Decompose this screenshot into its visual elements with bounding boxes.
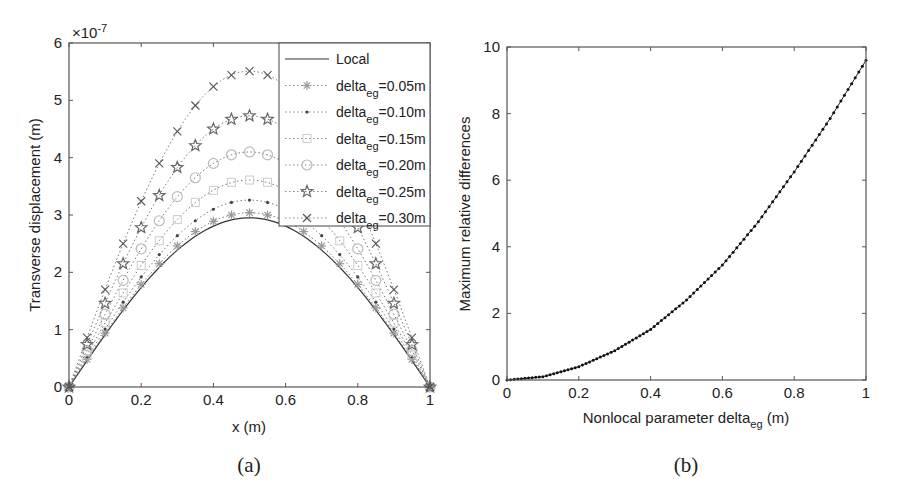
chart-b-relative-differences: 00.20.40.60.810246810 Nonlocal parameter… (456, 38, 870, 477)
y-tick-label: 4 (54, 149, 62, 166)
marker-dot-icon (721, 264, 724, 267)
marker-circle-icon (245, 147, 255, 157)
marker-x-icon (83, 334, 91, 342)
marker-x-icon (101, 286, 109, 294)
marker-dot-icon (212, 208, 215, 211)
marker-dot-icon (760, 215, 763, 218)
x-tick-label: 1 (426, 391, 434, 408)
chart-b-panel-label: (b) (674, 453, 699, 477)
marker-dot-icon (782, 185, 785, 188)
marker-dot-icon (674, 307, 677, 310)
marker-dot-icon (768, 205, 771, 208)
marker-dot-icon (545, 374, 548, 377)
marker-dot-icon (681, 302, 684, 305)
marker-dot-icon (599, 356, 602, 359)
marker-dot-icon (392, 327, 395, 330)
marker-dot-icon (786, 180, 789, 183)
marker-dot-icon (818, 133, 821, 136)
y-tick-label: 3 (54, 206, 62, 223)
marker-asterisk-icon (263, 211, 272, 220)
marker-dot-icon (778, 190, 781, 193)
marker-star-icon (244, 110, 255, 121)
y-tick-label: 5 (54, 91, 62, 108)
marker-dot-icon (549, 373, 552, 376)
marker-dot-icon (653, 325, 656, 328)
marker-dot-icon (606, 352, 609, 355)
marker-dot-icon (631, 339, 634, 342)
marker-dot-icon (266, 201, 269, 204)
marker-dot-icon (194, 219, 197, 222)
marker-dot-icon (764, 210, 767, 213)
marker-asterisk-icon (299, 227, 308, 236)
marker-dot-icon (646, 330, 649, 333)
marker-circle-icon (371, 275, 381, 285)
marker-star-icon (172, 161, 183, 172)
marker-x-icon (173, 127, 181, 135)
marker-dot-icon (839, 100, 842, 103)
marker-dot-icon (689, 295, 692, 298)
marker-circle-icon (136, 244, 146, 254)
x-tick-label: 0.4 (203, 391, 224, 408)
marker-dot-icon (714, 271, 717, 274)
marker-dot-icon (602, 354, 605, 357)
marker-dot-icon (538, 376, 541, 379)
marker-dot-icon (588, 360, 591, 363)
marker-asterisk-icon (173, 241, 182, 250)
marker-dot-icon (692, 292, 695, 295)
marker-dot-icon (541, 375, 544, 378)
chart-a-x-axis-label: x (m) (232, 418, 266, 435)
marker-dot-icon (836, 105, 839, 108)
marker-x-icon (119, 240, 127, 248)
y-tick-label: 2 (492, 304, 500, 321)
marker-dot-icon (850, 82, 853, 85)
marker-dot-icon (667, 313, 670, 316)
marker-dot-icon (746, 233, 749, 236)
marker-star-icon (226, 113, 237, 124)
marker-dot-icon (104, 327, 107, 330)
marker-dot-icon (628, 341, 631, 344)
marker-dot-icon (660, 319, 663, 322)
marker-dot-icon (320, 234, 323, 237)
chart-b-plot-area (506, 59, 868, 382)
marker-dot-icon (732, 251, 735, 254)
marker-dot-icon (642, 332, 645, 335)
chart-b-y-axis-label: Maximum relative differences (456, 117, 473, 312)
legend-marker-dot-icon (305, 110, 308, 113)
marker-asterisk-icon (191, 227, 200, 236)
marker-dot-icon (158, 253, 161, 256)
marker-dot-icon (534, 376, 537, 379)
y-tick-label: 0 (492, 371, 500, 388)
marker-dot-icon (663, 316, 666, 319)
marker-dot-icon (857, 70, 860, 73)
marker-dot-icon (847, 88, 850, 91)
chart-b-frame (507, 47, 866, 380)
marker-dot-icon (807, 149, 810, 152)
marker-dot-icon (559, 370, 562, 373)
legend-label: deltaeg=0.30m (336, 210, 426, 231)
marker-dot-icon (775, 195, 778, 198)
marker-dot-icon (649, 328, 652, 331)
marker-dot-icon (728, 255, 731, 258)
chart-a-y-exponent: ×10-7 (72, 22, 107, 41)
x-tick-label: 0.2 (131, 391, 152, 408)
y-tick-label: 6 (492, 171, 500, 188)
y-tick-label: 4 (492, 238, 500, 255)
marker-star-icon (99, 297, 110, 308)
marker-x-icon (227, 71, 235, 79)
marker-x-icon (191, 101, 199, 109)
marker-dot-icon (140, 275, 143, 278)
marker-dot-icon (248, 198, 251, 201)
marker-dot-icon (707, 278, 710, 281)
y-tick-label: 2 (54, 263, 62, 280)
y-tick-label: 6 (54, 34, 62, 51)
chart-a-y-axis-label: Transverse displacement (m) (26, 118, 43, 312)
marker-asterisk-icon (317, 241, 326, 250)
marker-dot-icon (552, 372, 555, 375)
marker-dot-icon (696, 288, 699, 291)
marker-dot-icon (356, 275, 359, 278)
marker-dot-icon (832, 111, 835, 114)
marker-square-icon (354, 261, 362, 269)
y-tick-label: 0 (54, 378, 62, 395)
chart-a-panel-label: (a) (237, 453, 260, 477)
marker-asterisk-icon (155, 259, 164, 268)
